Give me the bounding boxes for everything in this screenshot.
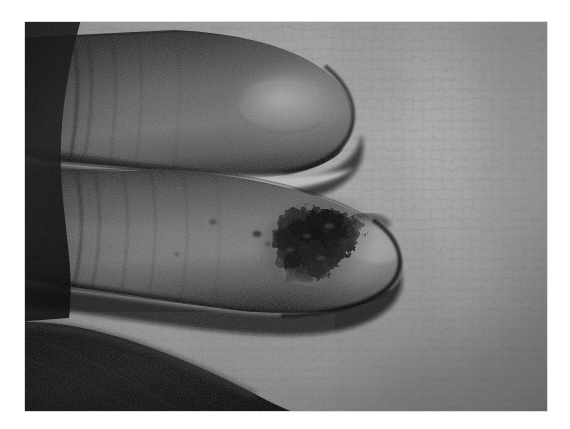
clinical-photograph: [25, 22, 547, 411]
film-grain-overlay: [25, 22, 547, 411]
photograph-canvas: [25, 22, 547, 411]
screenshot-root: Index finger (upper), intact Middle fing…: [0, 0, 570, 429]
